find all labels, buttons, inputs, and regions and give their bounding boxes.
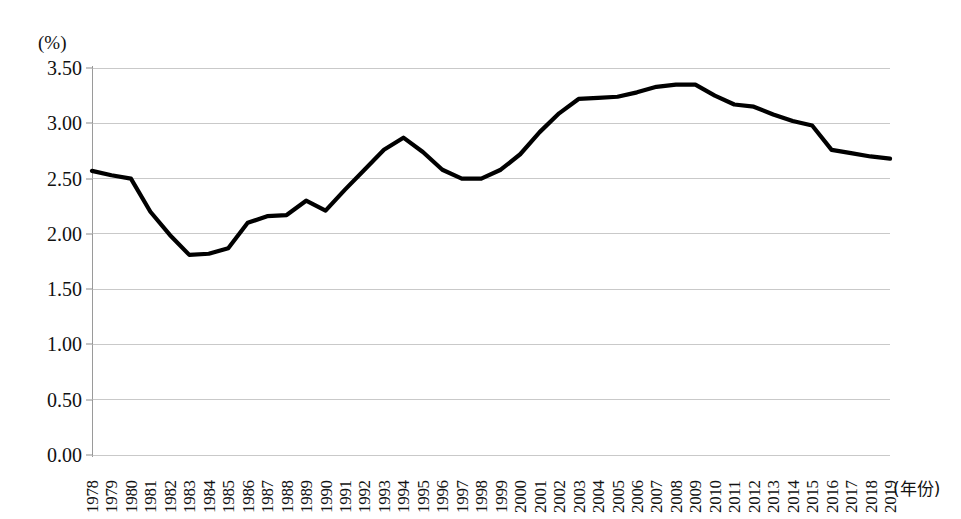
x-axis-title: (年份) xyxy=(893,481,940,498)
x-axis-tick-label: 1985 xyxy=(220,480,237,513)
y-axis-tick-mark xyxy=(86,289,93,290)
y-axis-tick-label: 1.00 xyxy=(47,334,82,354)
plot-area xyxy=(92,68,890,455)
x-axis-tick-label: 1993 xyxy=(376,480,393,513)
x-axis-tick-label: 2015 xyxy=(804,480,821,513)
x-axis-tick-label: 2016 xyxy=(824,480,841,513)
x-axis-tick-label: 1997 xyxy=(454,480,471,513)
y-axis-tick-mark xyxy=(86,178,93,179)
x-axis-tick-label: 1981 xyxy=(142,480,159,513)
y-axis-tick-labels: 3.503.002.502.001.501.000.500.00 xyxy=(0,68,82,455)
x-axis-tick-label: 1986 xyxy=(240,480,257,513)
x-axis-tick-label: 1992 xyxy=(356,480,373,513)
x-axis-tick-label: 1989 xyxy=(298,480,315,513)
x-axis-tick-label: 2012 xyxy=(746,480,763,513)
y-axis-tick-label: 3.00 xyxy=(47,113,82,133)
x-axis-tick-label: 1980 xyxy=(123,480,140,513)
x-axis-tick-label: 2002 xyxy=(551,480,568,513)
x-axis-tick-label: 1995 xyxy=(415,480,432,513)
y-axis-tick-mark xyxy=(86,455,93,456)
x-axis-tick-label: 1990 xyxy=(318,480,335,513)
x-axis-tick-label: 2001 xyxy=(532,480,549,513)
x-axis-tick-label: 1987 xyxy=(259,480,276,513)
y-axis-tick-mark xyxy=(86,68,93,69)
x-axis-tick-label: 1998 xyxy=(473,480,490,513)
x-axis-tick-label: 1991 xyxy=(337,480,354,513)
x-axis-tick-label: 1982 xyxy=(162,480,179,513)
x-axis-tick-label: 1978 xyxy=(84,480,101,513)
x-axis-tick-label: 2008 xyxy=(668,480,685,513)
x-axis-tick-labels: 1978197919801981198219831984198519861987… xyxy=(92,457,890,519)
x-axis-tick-label: 2018 xyxy=(863,480,880,513)
y-axis-tick-label: 2.00 xyxy=(47,224,82,244)
y-axis-tick-mark xyxy=(86,399,93,400)
data-series-line xyxy=(92,68,890,455)
x-axis-tick-label: 1984 xyxy=(201,480,218,513)
y-axis-tick-label: 1.50 xyxy=(47,279,82,299)
x-axis-tick-label: 2010 xyxy=(707,480,724,513)
x-axis-tick-label: 1988 xyxy=(279,480,296,513)
y-axis-tick-label: 2.50 xyxy=(47,169,82,189)
x-axis-tick-label: 2007 xyxy=(648,480,665,513)
y-axis-tick-label: 0.00 xyxy=(47,445,82,465)
x-axis-tick-label: 1979 xyxy=(103,480,120,513)
y-axis-unit-label: (%) xyxy=(38,33,66,52)
y-axis-tick-mark xyxy=(86,344,93,345)
y-axis-tick-mark xyxy=(86,233,93,234)
y-axis-tick-label: 3.50 xyxy=(47,58,82,78)
x-axis-tick-label: 2009 xyxy=(687,480,704,513)
line-chart: (%) 3.503.002.502.001.501.000.500.00 197… xyxy=(0,0,961,519)
series-path xyxy=(92,85,890,255)
x-axis-tick-label: 1994 xyxy=(395,480,412,513)
x-axis-tick-label: 2013 xyxy=(765,480,782,513)
x-axis-tick-label: 2006 xyxy=(629,480,646,513)
x-axis-tick-label: 1999 xyxy=(493,480,510,513)
y-axis-tick-label: 0.50 xyxy=(47,390,82,410)
x-axis-tick-label: 2011 xyxy=(726,481,743,513)
x-axis-tick-label: 2000 xyxy=(512,480,529,513)
x-axis-tick-label: 1983 xyxy=(181,480,198,513)
y-axis-tick-mark xyxy=(86,123,93,124)
x-axis-tick-label: 2017 xyxy=(843,480,860,513)
x-axis-tick-label: 2004 xyxy=(590,480,607,513)
x-axis-tick-label: 1996 xyxy=(434,480,451,513)
x-axis-tick-label: 2005 xyxy=(610,480,627,513)
x-axis-tick-label: 2003 xyxy=(571,480,588,513)
x-axis-tick-label: 2014 xyxy=(785,480,802,513)
